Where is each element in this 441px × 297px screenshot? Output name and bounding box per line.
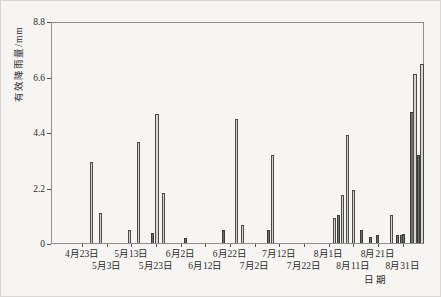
x-axis-tick — [378, 244, 379, 247]
rainfall-bar — [184, 238, 187, 243]
y-axis-tick — [47, 244, 51, 245]
x-tick-label: 8月21日 — [361, 249, 395, 259]
rainfall-bar — [235, 119, 238, 243]
y-tick-label: 8.8 — [19, 17, 45, 27]
rainfall-bar — [337, 215, 340, 243]
x-axis-tick — [205, 244, 206, 247]
x-tick-label: 5月23日 — [139, 261, 173, 271]
rainfall-bar — [352, 190, 355, 243]
x-tick-label: 6月2日 — [166, 249, 196, 259]
x-axis-tick — [255, 244, 256, 247]
x-tick-label: 8月11日 — [336, 261, 370, 271]
rainfall-bar — [390, 215, 393, 243]
x-axis-tick — [82, 244, 83, 247]
x-tick-label: 4月23日 — [65, 249, 99, 259]
x-axis-tick — [304, 244, 305, 247]
x-tick-label: 6月22日 — [213, 249, 247, 259]
y-axis-title: 有效降雨量/mm — [11, 26, 25, 101]
rainfall-bar — [155, 114, 159, 243]
x-axis-tick — [131, 244, 132, 247]
plot-area — [51, 22, 424, 244]
rainfall-bar — [333, 218, 336, 243]
rainfall-bar — [376, 235, 379, 243]
x-axis-tick — [279, 244, 280, 247]
rainfall-bar-chart: 有效降雨量/mm 日期 02.24.46.68.84月23日5月3日5月13日5… — [0, 0, 441, 297]
y-tick-label: 2.2 — [19, 184, 45, 194]
x-axis-tick — [403, 244, 404, 247]
rainfall-bar — [396, 235, 399, 243]
rainfall-bar — [162, 193, 165, 243]
rainfall-bar — [99, 213, 102, 243]
x-tick-label: 5月13日 — [114, 249, 148, 259]
x-axis-tick — [107, 244, 108, 247]
rainfall-bar — [369, 237, 372, 243]
x-axis-tick — [353, 244, 354, 247]
rainfall-bar — [90, 162, 93, 243]
x-axis-tick — [156, 244, 157, 247]
x-tick-label: 6月12日 — [188, 261, 222, 271]
rainfall-bar — [346, 135, 349, 243]
x-tick-label: 5月3日 — [92, 261, 122, 271]
rainfall-bar — [271, 155, 274, 243]
x-tick-label: 8月31日 — [385, 261, 419, 271]
x-tick-label: 8月1日 — [314, 249, 344, 259]
x-axis-tick — [329, 244, 330, 247]
x-tick-label: 7月12日 — [262, 249, 296, 259]
rainfall-bar — [222, 230, 225, 243]
rainfall-bar — [241, 225, 244, 243]
rainfall-bar — [128, 230, 131, 243]
rainfall-bar — [267, 230, 270, 243]
rainfall-bar — [420, 64, 424, 243]
y-axis-tick — [47, 78, 51, 79]
rainfall-bar — [360, 230, 363, 243]
rainfall-bar — [402, 234, 405, 243]
x-tick-label: 7月22日 — [287, 261, 321, 271]
rainfall-bar — [151, 233, 154, 243]
y-axis-tick — [47, 189, 51, 190]
y-axis-tick — [47, 133, 51, 134]
x-axis-tick — [181, 244, 182, 247]
x-axis-title: 日期 — [364, 272, 388, 286]
y-tick-label: 4.4 — [19, 128, 45, 138]
y-axis-tick — [47, 22, 51, 23]
x-axis-tick — [230, 244, 231, 247]
rainfall-bar — [137, 142, 140, 243]
x-tick-label: 7月2日 — [240, 261, 270, 271]
rainfall-bar — [341, 195, 344, 243]
y-tick-label: 6.6 — [19, 73, 45, 83]
y-tick-label: 0 — [19, 239, 45, 249]
